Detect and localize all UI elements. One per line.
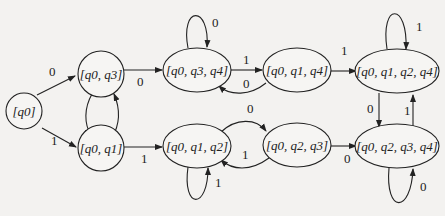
state-q0: [q0] <box>6 93 42 129</box>
state-label: [q0, q3] <box>80 67 123 82</box>
edge-label: 0 <box>247 101 254 116</box>
state-q0-q3: [q0, q3] <box>78 51 124 97</box>
state-q0-q2-q3: [q0, q2, q3] <box>263 123 331 167</box>
state-q0-q3-q4: [q0, q3, q4] <box>163 48 231 92</box>
edge-label: 1 <box>404 103 411 118</box>
edge-q0q1q2q4-loop <box>386 14 406 49</box>
edge-label: 0 <box>344 151 351 166</box>
state-label: [q0, q2, q3, q4] <box>356 139 438 154</box>
edge-label: 0 <box>49 64 56 79</box>
edge-label: 0 <box>243 76 250 91</box>
state-q0-q1: [q0, q1] <box>78 125 124 171</box>
edge-label: 1 <box>416 19 423 34</box>
edge-q0q1q2-to-q0q2q3 <box>221 121 266 132</box>
edge-q0q2q3q4-loop <box>389 168 413 203</box>
state-label: [q0, q3, q4] <box>166 63 228 78</box>
state-label: [q0] <box>12 104 35 119</box>
states: [q0] [q0, q3] [q0, q1] [q0, q3, q4] [q0,… <box>6 48 439 171</box>
state-label: [q0, q1] <box>80 141 123 156</box>
state-q0-q1-q4: [q0, q1, q4] <box>263 48 331 92</box>
state-q0-q1-q2-q4: [q0, q1, q2, q4] <box>355 49 439 93</box>
edge-q0q3q4-loop <box>187 16 208 48</box>
edge-q0-to-q0q1 <box>42 128 76 147</box>
state-q0-q2-q3-q4: [q0, q2, q3, q4] <box>355 124 439 168</box>
edge-label: 1 <box>141 151 148 166</box>
state-label: [q0, q1, q2] <box>166 139 228 154</box>
edge-label: 0 <box>367 101 374 116</box>
edge-label: 1 <box>51 133 58 148</box>
edge-label: 0 <box>420 179 427 194</box>
state-label: [q0, q1, q2, q4] <box>356 64 438 79</box>
edge-q0q1q2-loop <box>187 167 208 199</box>
state-label: [q0, q1, q4] <box>266 63 328 78</box>
edge-label: 1 <box>242 147 249 162</box>
edge-label: 0 <box>137 74 144 89</box>
edge-label: 1 <box>341 43 348 58</box>
state-label: [q0, q2, q3] <box>266 138 328 153</box>
state-q0-q1-q2: [q0, q1, q2] <box>163 124 231 168</box>
edge-label: 1 <box>243 52 250 67</box>
edge-q0-to-q0q3 <box>37 76 75 95</box>
dfa-diagram: 0 1 0 1 0 1 0 1 1 0 1 1 0 1 0 0 [q0] [q0… <box>0 0 445 216</box>
edge-label: 1 <box>215 175 222 190</box>
edge-label: 0 <box>212 15 219 30</box>
edges <box>37 14 413 203</box>
